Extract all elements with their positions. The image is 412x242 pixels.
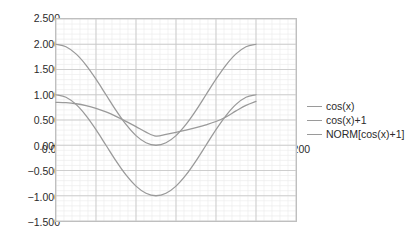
chart-legend: cos(x)cos(x)+1NORM[cos(x)+1]	[307, 101, 404, 140]
chart-container: 2.5002.0001.5001.0000.5000.000−0.500−1.0…	[0, 0, 412, 242]
legend-line-swatch	[307, 134, 322, 135]
y-tick-label: −1.000	[2, 192, 60, 202]
y-tick-label: 2.500	[2, 13, 60, 23]
series-line-1	[56, 44, 256, 145]
legend-item-label: cos(x)+1	[326, 115, 367, 126]
legend-line-swatch	[307, 106, 322, 107]
legend-item-label: NORM[cos(x)+1]	[326, 129, 404, 140]
series-lines	[56, 19, 296, 221]
y-tick-label: 1.500	[2, 64, 60, 74]
y-tick-label: 1.000	[2, 90, 60, 100]
y-tick-label: 0.500	[2, 115, 60, 125]
plot-area	[55, 18, 297, 222]
legend-item[interactable]: cos(x)+1	[307, 115, 404, 126]
y-tick-label: −1.500	[2, 217, 60, 227]
legend-line-swatch	[307, 120, 322, 121]
y-tick-label: −0.500	[2, 166, 60, 176]
legend-item[interactable]: cos(x)	[307, 101, 404, 112]
legend-item-label: cos(x)	[326, 101, 355, 112]
legend-item[interactable]: NORM[cos(x)+1]	[307, 129, 404, 140]
y-tick-label: 2.000	[2, 39, 60, 49]
series-line-2	[56, 101, 256, 136]
